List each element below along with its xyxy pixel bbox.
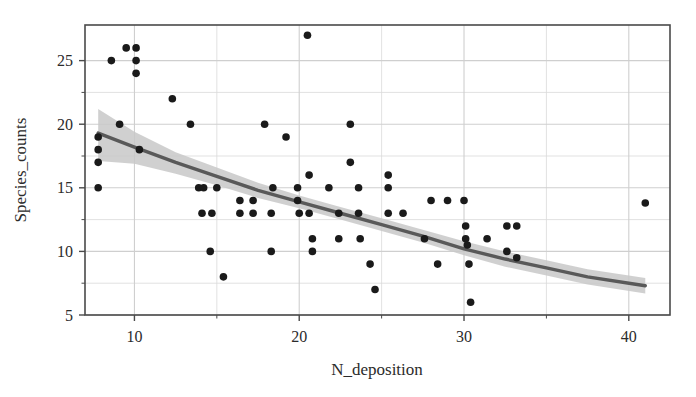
scatter-point	[462, 222, 470, 230]
scatter-point	[384, 171, 392, 179]
x-tick-label: 40	[621, 328, 637, 345]
scatter-point	[220, 273, 228, 281]
scatter-point	[236, 209, 244, 217]
scatter-point	[309, 248, 317, 256]
scatter-point	[136, 146, 144, 154]
scatter-point	[198, 209, 206, 217]
scatter-point	[213, 184, 221, 192]
scatter-point	[108, 57, 116, 65]
scatter-point	[200, 184, 208, 192]
scatter-point	[294, 184, 302, 192]
scatter-plot-canvas: 10203040 510152025 N_deposition Species_…	[0, 0, 696, 397]
scatter-point	[347, 120, 355, 128]
scatter-point	[294, 197, 302, 205]
scatter-point	[427, 197, 435, 205]
scatter-point	[421, 235, 429, 243]
scatter-point	[309, 235, 317, 243]
scatter-point	[116, 120, 124, 128]
scatter-point	[503, 248, 511, 256]
scatter-point	[434, 260, 442, 268]
scatter-point	[460, 197, 468, 205]
scatter-point	[208, 209, 216, 217]
x-tick-label: 10	[126, 328, 142, 345]
scatter-point	[261, 120, 269, 128]
y-tick-label: 25	[57, 52, 73, 69]
scatter-point	[304, 31, 312, 39]
scatter-point	[132, 70, 140, 78]
y-tick-label: 5	[65, 307, 73, 324]
scatter-point	[347, 159, 355, 167]
scatter-point	[187, 120, 195, 128]
y-tick-label: 20	[57, 116, 73, 133]
scatter-point	[94, 133, 102, 141]
scatter-point	[206, 248, 214, 256]
scatter-point	[94, 146, 102, 154]
scatter-point	[483, 235, 491, 243]
scatter-point	[282, 133, 290, 141]
scatter-point	[132, 57, 140, 65]
scatter-point	[249, 197, 257, 205]
scatter-point	[335, 235, 343, 243]
x-tick-label: 30	[456, 328, 472, 345]
scatter-point	[444, 197, 452, 205]
x-axis-title: N_deposition	[331, 360, 423, 379]
scatter-point	[462, 235, 470, 243]
scatter-point	[305, 209, 313, 217]
scatter-point	[464, 241, 472, 249]
scatter-point	[513, 254, 521, 262]
scatter-point	[295, 209, 303, 217]
scatter-point	[169, 95, 177, 103]
scatter-point	[467, 298, 475, 306]
scatter-point	[267, 248, 275, 256]
scatter-point	[371, 286, 379, 294]
x-axis-ticks: 10203040	[126, 315, 636, 345]
scatter-point	[355, 209, 363, 217]
scatter-point	[384, 184, 392, 192]
scatter-point	[249, 209, 257, 217]
scatter-point	[641, 199, 649, 207]
scatter-point	[366, 260, 374, 268]
scatter-point	[267, 209, 275, 217]
y-tick-label: 10	[57, 243, 73, 260]
y-axis-ticks: 510152025	[57, 52, 85, 323]
scatter-point	[132, 44, 140, 52]
scatter-point	[269, 184, 277, 192]
scatter-point	[399, 209, 407, 217]
scatter-point	[94, 184, 102, 192]
chart-figure: 10203040 510152025 N_deposition Species_…	[0, 0, 696, 397]
scatter-point	[355, 184, 363, 192]
x-tick-label: 20	[291, 328, 307, 345]
scatter-point	[236, 197, 244, 205]
y-tick-label: 15	[57, 179, 73, 196]
scatter-point	[94, 159, 102, 167]
y-axis-title: Species_counts	[11, 118, 30, 223]
scatter-point	[384, 209, 392, 217]
scatter-point	[465, 260, 473, 268]
scatter-point	[335, 209, 343, 217]
scatter-point	[513, 222, 521, 230]
scatter-point	[305, 171, 313, 179]
scatter-point	[356, 235, 364, 243]
scatter-point	[325, 184, 333, 192]
scatter-point	[122, 44, 130, 52]
scatter-point	[503, 222, 511, 230]
